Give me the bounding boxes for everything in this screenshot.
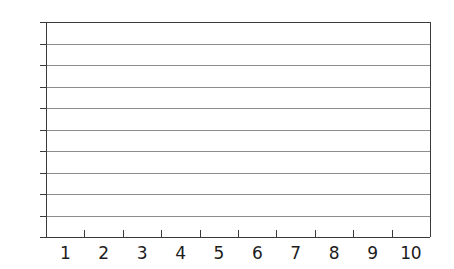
x-tick-label-1: 1: [45, 245, 85, 262]
x-tick-label-4: 4: [160, 245, 200, 262]
gridline-y-8: [46, 65, 430, 66]
x-tick-label-3: 3: [122, 245, 162, 262]
x-tick-label-5: 5: [199, 245, 239, 262]
axis-line-right: [430, 22, 431, 237]
gridline-y-10: [46, 22, 430, 23]
gridline-y-7: [46, 87, 430, 88]
x-tick-label-8: 8: [314, 245, 354, 262]
plot-area: [46, 22, 430, 237]
gridline-y-0: [46, 237, 430, 238]
x-tick-label-2: 2: [84, 245, 124, 262]
gridline-y-1: [46, 216, 430, 217]
x-tick-label-10: 10: [391, 245, 431, 262]
gridline-y-6: [46, 108, 430, 109]
gridline-y-5: [46, 130, 430, 131]
x-tick-label-6: 6: [237, 245, 277, 262]
gridline-y-2: [46, 194, 430, 195]
gridline-y-9: [46, 44, 430, 45]
blank-graph-grid: 109876543210 12345678910: [0, 0, 454, 269]
x-tick-label-7: 7: [276, 245, 316, 262]
x-tick-label-9: 9: [352, 245, 392, 262]
gridline-y-3: [46, 173, 430, 174]
axis-line-left: [46, 22, 47, 237]
gridline-y-4: [46, 151, 430, 152]
